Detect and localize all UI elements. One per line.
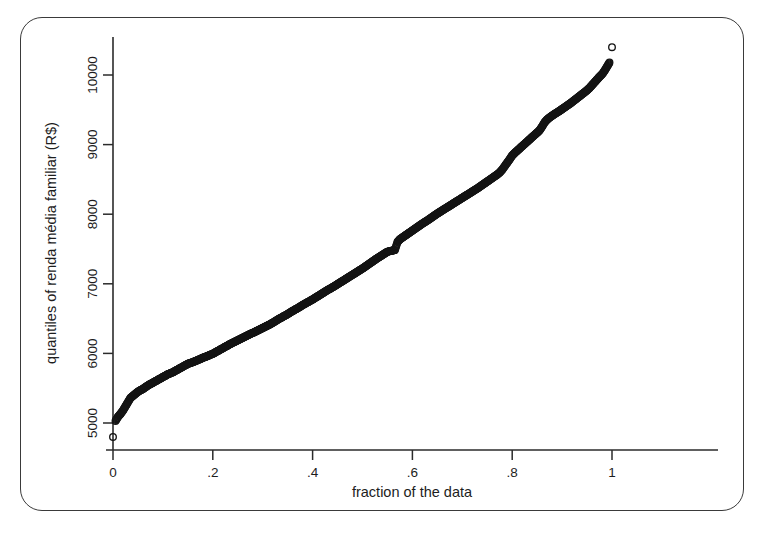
- y-axis: 5000600070008000900010000: [85, 37, 113, 450]
- y-tick-label: 10000: [85, 56, 100, 94]
- y-axis-title: quantiles of renda média familiar (R$): [43, 122, 59, 364]
- y-tick-label: 7000: [85, 269, 100, 299]
- figure-root: 5000600070008000900010000 0.2.4.6.81 fra…: [0, 0, 766, 535]
- x-tick-label: .4: [307, 465, 319, 480]
- x-axis: 0.2.4.6.81: [106, 450, 718, 480]
- x-tick-label: .2: [207, 465, 218, 480]
- y-tick-label: 9000: [85, 130, 100, 160]
- x-tick-label: 0: [109, 465, 117, 480]
- x-tick-label: .6: [407, 465, 418, 480]
- y-tick-label: 8000: [85, 199, 100, 229]
- y-tick-label: 5000: [85, 408, 100, 438]
- plot-area: 5000600070008000900010000 0.2.4.6.81 fra…: [0, 0, 766, 535]
- qq-plot-svg: 5000600070008000900010000 0.2.4.6.81 fra…: [0, 0, 766, 535]
- x-tick-label: 1: [608, 465, 616, 480]
- data-point-series: [110, 44, 616, 440]
- y-tick-label: 6000: [85, 338, 100, 368]
- x-axis-title: fraction of the data: [352, 484, 473, 500]
- data-point: [609, 44, 616, 51]
- x-tick-label: .8: [507, 465, 518, 480]
